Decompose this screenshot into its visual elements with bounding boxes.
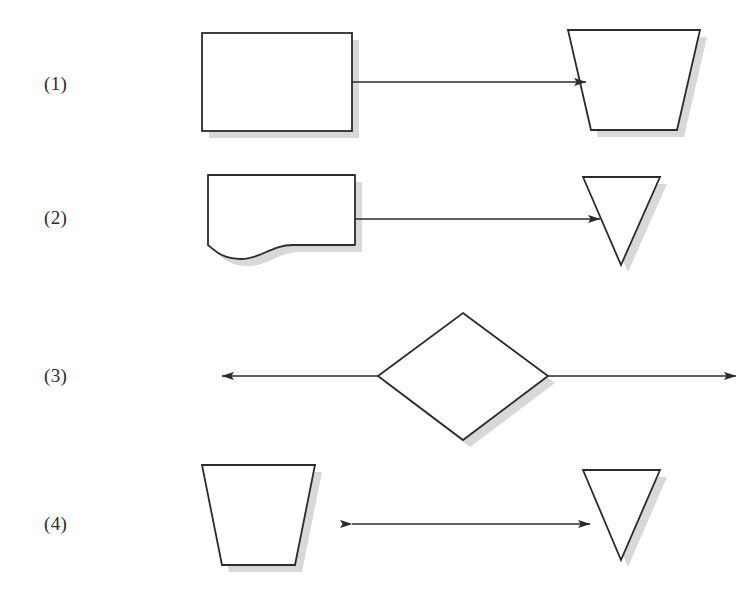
row-4-group bbox=[202, 465, 667, 572]
row-1-group bbox=[202, 30, 707, 138]
row-label-3: (3) bbox=[44, 365, 67, 387]
rectangle-shape[interactable] bbox=[202, 33, 352, 131]
diagram-canvas bbox=[0, 0, 748, 608]
row-label-4: (4) bbox=[44, 513, 67, 535]
diamond-shape[interactable] bbox=[378, 313, 548, 440]
row-label-1: (1) bbox=[44, 73, 67, 95]
row-2-group bbox=[208, 175, 667, 272]
row-label-2: (2) bbox=[44, 207, 67, 229]
trapezoid-shape-row4[interactable] bbox=[202, 465, 315, 565]
trapezoid-shape-row1[interactable] bbox=[568, 30, 700, 130]
row-3-group bbox=[222, 313, 736, 447]
